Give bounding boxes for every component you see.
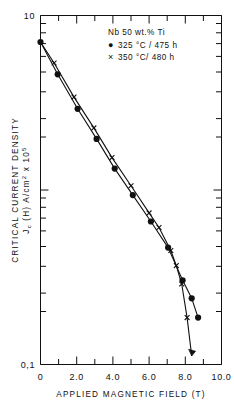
y-tick-label-bottom: 0,1 — [21, 360, 35, 370]
legend-material-label: Nb 50 wt.% Ti — [108, 28, 165, 37]
y-axis-ticks-right — [214, 16, 222, 365]
y-axis-scale-text: x 10 — [22, 151, 31, 175]
x-tick-label-5: 10.0 — [212, 372, 232, 382]
legend-entry-350c-label: 350 °C/ 480 h — [118, 53, 175, 62]
x-axis-title: APPLIED MAGNETIC FIELD (T) — [56, 390, 205, 399]
x-tick-label-3: 6.0 — [142, 372, 156, 382]
y-axis-title-line2: Jc (H) A/cm2 x 105 — [21, 146, 32, 233]
x-axis-ticks-top — [59, 16, 204, 24]
y-axis-title-line1: CRITICAL CURRENT DENSITY — [11, 117, 20, 263]
y-axis-units: (H) A/cm — [22, 179, 31, 224]
x-tick-label-0: 0 — [38, 372, 44, 382]
legend-entry-325c-label: 325 °C / 475 h — [118, 41, 177, 50]
legend: Nb 50 wt.% Ti ● 325 °C / 475 h × 350 °C/… — [108, 28, 177, 62]
y-axis-ticks-left — [41, 16, 49, 365]
critical-current-density-chart: 10 0,1 0 2.0 4.0 6.0 8.0 10.0 APPLIED MA… — [0, 0, 234, 413]
series-325c-line — [41, 42, 199, 318]
y-tick-label-top: 10 — [24, 11, 35, 21]
series-350c-line — [41, 42, 196, 356]
plot-frame — [41, 16, 222, 365]
legend-symbol-cross-icon: × — [108, 52, 113, 62]
x-axis-ticks-bottom — [59, 357, 204, 365]
legend-symbol-filled-circle-icon: ● — [108, 40, 113, 50]
figure-root: 10 0,1 0 2.0 4.0 6.0 8.0 10.0 APPLIED MA… — [0, 0, 234, 413]
svg-text:Jc (H) A/cm2 x 105: Jc (H) A/cm2 x 105 — [21, 146, 32, 233]
y-axis-scale-exponent: 5 — [21, 146, 27, 151]
x-tick-label-4: 8.0 — [178, 372, 192, 382]
x-tick-label-2: 4.0 — [106, 372, 120, 382]
x-tick-label-1: 2.0 — [70, 372, 84, 382]
